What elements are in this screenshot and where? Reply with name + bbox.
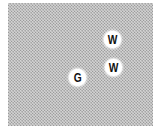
token-w-top[interactable]: W [104, 31, 121, 48]
game-board[interactable] [8, 3, 153, 126]
token-label: W [109, 62, 119, 74]
token-w-middle[interactable]: W [105, 59, 122, 76]
token-label: G [74, 72, 82, 84]
token-g[interactable]: G [69, 69, 86, 86]
token-label: W [108, 34, 118, 46]
